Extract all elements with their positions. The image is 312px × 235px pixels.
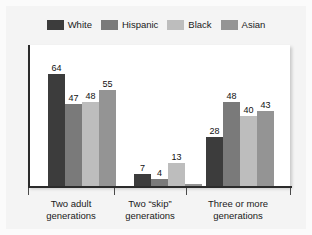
bar-group-two-adult-generations: 64 47 48 55	[48, 45, 116, 186]
legend-swatch-hispanic	[101, 20, 118, 30]
category-line-2: generations	[186, 210, 290, 222]
bar-rect-white-g1	[134, 174, 151, 186]
legend-swatch-asian	[221, 20, 238, 30]
bar-rect-black-g1	[168, 163, 185, 186]
x-axis-tick-3	[290, 188, 291, 195]
x-axis-line	[28, 186, 292, 188]
bar-group-three-or-more-generations: 28 48 40 43	[206, 45, 274, 186]
bar-value-hispanic-g1: 4	[157, 168, 162, 178]
legend-item-asian: Asian	[221, 20, 266, 30]
category-label-two-skip-generations: Two “skip” generations	[114, 198, 186, 222]
bar-rect-asian-g1	[185, 184, 202, 186]
x-axis-tick-1	[114, 188, 115, 195]
bar-rect-hispanic-g2	[223, 102, 240, 186]
bar-hispanic-g0: 47	[65, 45, 82, 186]
legend-swatch-black	[167, 20, 184, 30]
category-line-1: Two “skip”	[114, 198, 186, 210]
legend-label-white: White	[68, 20, 92, 30]
bar-value-white-g2: 28	[209, 126, 219, 136]
bar-black-g0: 48	[82, 45, 99, 186]
legend-item-hispanic: Hispanic	[101, 20, 158, 30]
bar-value-white-g0: 64	[51, 63, 61, 73]
bar-value-black-g0: 48	[85, 91, 95, 101]
bar-value-asian-g0: 55	[102, 79, 112, 89]
bar-white-g2: 28	[206, 45, 223, 186]
category-line-1: Two adult	[28, 198, 114, 210]
bar-rect-white-g2	[206, 137, 223, 186]
bar-value-hispanic-g0: 47	[68, 93, 78, 103]
bar-asian-g0: 55	[99, 45, 116, 186]
bar-value-black-g1: 13	[171, 152, 181, 162]
legend-swatch-white	[47, 20, 64, 30]
bar-rect-hispanic-g1	[151, 179, 168, 186]
legend-item-white: White	[47, 20, 92, 30]
bar-white-g0: 64	[48, 45, 65, 186]
chart-legend: White Hispanic Black Asian	[6, 20, 306, 30]
bar-value-white-g1: 7	[140, 163, 145, 173]
bar-value-asian-g2: 43	[260, 100, 270, 110]
bar-black-g2: 40	[240, 45, 257, 186]
legend-label-black: Black	[188, 20, 211, 30]
bar-rect-hispanic-g0	[65, 104, 82, 186]
bar-rect-black-g2	[240, 116, 257, 186]
legend-item-black: Black	[167, 20, 211, 30]
x-axis-tick-0	[28, 188, 29, 195]
category-line-2: generations	[114, 210, 186, 222]
legend-label-asian: Asian	[242, 20, 266, 30]
chart-figure: White Hispanic Black Asian 64	[0, 0, 312, 235]
x-axis-tick-2	[186, 188, 187, 195]
bar-black-g1: 13	[168, 45, 185, 186]
bar-white-g1: 7	[134, 45, 151, 186]
bar-hispanic-g2: 48	[223, 45, 240, 186]
bar-rect-asian-g2	[257, 111, 274, 186]
category-line-1: Three or more	[186, 198, 290, 210]
chart-canvas: White Hispanic Black Asian 64	[6, 6, 306, 229]
bar-asian-g1: 1	[185, 45, 202, 186]
bar-value-black-g2: 40	[243, 105, 253, 115]
bar-rect-black-g0	[82, 102, 99, 186]
legend-label-hispanic: Hispanic	[122, 20, 158, 30]
bar-group-two-skip-generations: 7 4 13 1	[134, 45, 202, 186]
bar-rect-white-g0	[48, 74, 65, 186]
category-label-three-or-more-generations: Three or more generations	[186, 198, 290, 222]
bar-hispanic-g1: 4	[151, 45, 168, 186]
plot-area: 64 47 48 55 7	[30, 45, 290, 186]
category-line-2: generations	[28, 210, 114, 222]
category-label-two-adult-generations: Two adult generations	[28, 198, 114, 222]
bar-rect-asian-g0	[99, 90, 116, 186]
bar-value-hispanic-g2: 48	[226, 91, 236, 101]
bar-asian-g2: 43	[257, 45, 274, 186]
